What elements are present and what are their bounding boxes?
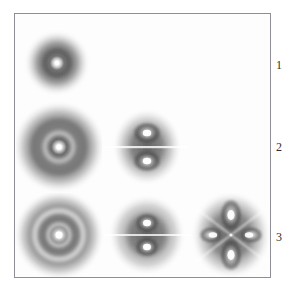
row-label-3: 3 — [276, 230, 290, 245]
orbital-figure: s p d 1 2 3 — [0, 0, 291, 299]
orbital-panel-3s — [15, 193, 103, 277]
orbital-panel-2p — [105, 101, 189, 193]
orbital-panel-3d — [192, 193, 270, 277]
row-label-2: 2 — [276, 140, 290, 155]
orbital-panel-1s — [18, 30, 96, 100]
row-label-1: 1 — [276, 58, 290, 73]
orbital-panel-2s — [16, 101, 102, 193]
orbital-panel-3p — [104, 193, 191, 277]
